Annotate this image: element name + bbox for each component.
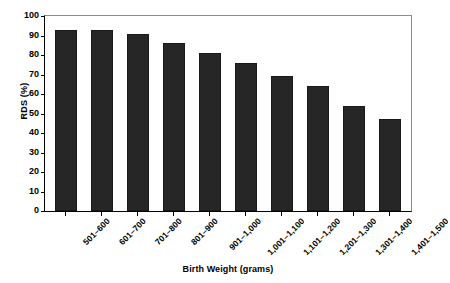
- x-tick-label: 1,101–1,200: [301, 216, 342, 257]
- y-tick-label: 100: [24, 10, 39, 20]
- bar-slot: [156, 16, 192, 211]
- x-tick-label: 801–900: [189, 216, 220, 247]
- bar: [307, 86, 329, 211]
- bar: [235, 63, 257, 211]
- x-axis-title: Birth Weight (grams): [44, 264, 412, 274]
- bar-slot: [84, 16, 120, 211]
- bar-slot: [372, 16, 408, 211]
- bar-slot: [48, 16, 84, 211]
- plot-area: 0102030405060708090100: [44, 15, 412, 212]
- x-tick-label: 1,001–1,100: [265, 216, 306, 257]
- x-axis-tick-labels: 501–600601–700701–800801–900901–1,0001,0…: [44, 216, 412, 262]
- y-axis-title: RDS (%): [19, 41, 29, 161]
- x-tick-label: 501–600: [81, 216, 112, 247]
- bar-slot: [336, 16, 372, 211]
- bar: [55, 30, 77, 211]
- bar-series: [45, 16, 411, 211]
- bar-slot: [192, 16, 228, 211]
- y-tick-label: 20: [29, 166, 39, 176]
- y-tick-label: 80: [29, 49, 39, 59]
- y-tick-label: 70: [29, 69, 39, 79]
- x-tick-label: 901–1,000: [227, 216, 263, 252]
- x-tick-label: 1,201–1,300: [337, 216, 378, 257]
- y-tick-label: 30: [29, 147, 39, 157]
- bar: [163, 43, 185, 211]
- bar-slot: [228, 16, 264, 211]
- y-tick-label: 90: [29, 30, 39, 40]
- bar: [127, 34, 149, 211]
- y-tick-label: 0: [34, 205, 39, 215]
- y-tick-label: 10: [29, 186, 39, 196]
- y-tick-label: 40: [29, 127, 39, 137]
- bar-slot: [300, 16, 336, 211]
- x-tick-label: 1,301–1,400: [373, 216, 414, 257]
- x-tick-label: 701–800: [153, 216, 184, 247]
- bar: [343, 106, 365, 211]
- bar-slot: [264, 16, 300, 211]
- x-tick-label: 1,401–1,500: [409, 216, 450, 257]
- bar-slot: [120, 16, 156, 211]
- x-tick-label: 601–700: [117, 216, 148, 247]
- y-tick-label: 50: [29, 108, 39, 118]
- bar: [271, 76, 293, 211]
- bar: [91, 30, 113, 211]
- y-tick-label: 60: [29, 88, 39, 98]
- bar: [199, 53, 221, 211]
- bar: [379, 119, 401, 211]
